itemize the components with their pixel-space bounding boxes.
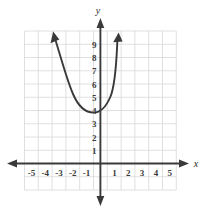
y-tick-label: 3	[92, 119, 97, 129]
x-tick-label: -4	[41, 168, 49, 178]
x-tick-label: -3	[55, 168, 63, 178]
x-tick-label: -2	[69, 168, 77, 178]
y-tick-labels: 1 2 3 4 5 6 7 8 9	[92, 40, 97, 156]
x-axis	[7, 160, 189, 168]
x-tick-label: 1	[112, 168, 117, 178]
y-axis-name: y	[95, 5, 101, 16]
x-tick-label: 5	[167, 168, 172, 178]
x-tick-label: 2	[126, 168, 131, 178]
x-axis-left-arrowhead	[7, 160, 17, 168]
y-tick-label: 1	[92, 146, 97, 156]
x-tick-label: 3	[140, 168, 145, 178]
y-tick-label: 2	[92, 133, 97, 143]
y-tick-label: 7	[92, 66, 97, 76]
y-axis-top-arrowhead	[97, 18, 105, 28]
parabola-curve	[51, 0, 211, 113]
y-tick-label: 4	[92, 106, 97, 116]
x-tick-label: -5	[28, 168, 36, 178]
coordinate-plane-svg: -5 -4 -3 -2 -1 1 2 3 4 5 1 2 3 4 5 6 7 8…	[0, 0, 210, 213]
graph-figure: -5 -4 -3 -2 -1 1 2 3 4 5 1 2 3 4 5 6 7 8…	[0, 0, 210, 213]
x-tick-label: 4	[154, 168, 159, 178]
y-tick-label: 9	[92, 40, 97, 50]
y-tick-label: 5	[92, 93, 97, 103]
y-axis-bottom-arrowhead	[97, 196, 105, 206]
y-tick-label: 6	[92, 80, 97, 90]
x-axis-right-arrowhead	[179, 160, 189, 168]
x-axis-name: x	[193, 158, 199, 169]
x-tick-label: -1	[83, 168, 91, 178]
y-tick-label: 8	[92, 53, 97, 63]
